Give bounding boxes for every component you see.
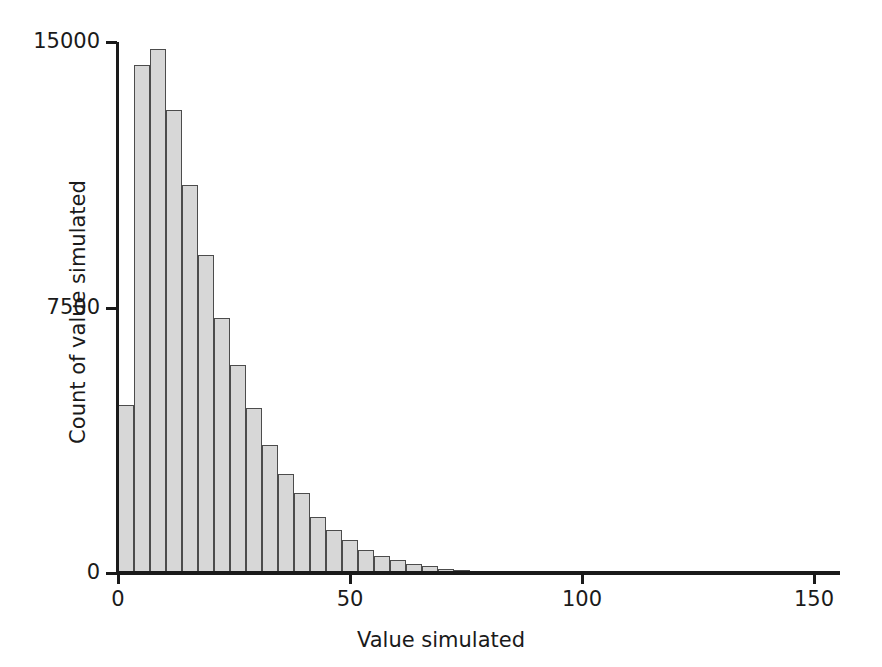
histogram-bar <box>294 493 310 573</box>
x-axis-tick <box>813 573 816 584</box>
histogram-bar <box>278 474 294 573</box>
histogram-bar <box>198 255 214 573</box>
x-axis-tick-label: 0 <box>78 589 158 610</box>
histogram-bar <box>262 445 278 573</box>
histogram-bar <box>230 365 246 573</box>
histogram-figure: 0750015000 050100150 Value simulated Cou… <box>0 0 882 667</box>
y-axis-tick <box>106 572 117 575</box>
histogram-bar <box>342 540 358 573</box>
histogram-bar <box>326 530 342 573</box>
histogram-bar <box>118 405 134 573</box>
y-axis-title: Count of value simulated <box>66 82 90 542</box>
x-axis-tick-label: 150 <box>774 589 854 610</box>
x-axis-tick <box>117 573 120 584</box>
histogram-bar <box>166 110 182 573</box>
histogram-bar <box>214 318 230 573</box>
histogram-bar <box>150 49 166 573</box>
y-axis-tick <box>106 41 117 44</box>
x-axis-tick <box>581 573 584 584</box>
y-axis-title-wrapper: Count of value simulated <box>44 20 74 580</box>
x-axis-tick <box>349 573 352 584</box>
x-axis-line <box>116 571 840 575</box>
histogram-bar <box>134 65 150 573</box>
histogram-bar <box>246 408 262 573</box>
histogram-bar <box>182 185 198 573</box>
histogram-bar <box>358 550 374 573</box>
y-axis-tick <box>106 307 117 310</box>
x-axis-title: Value simulated <box>0 628 882 652</box>
x-axis-tick-label: 50 <box>310 589 390 610</box>
plot-area <box>118 42 818 573</box>
histogram-bar <box>310 517 326 573</box>
x-axis-tick-label: 100 <box>542 589 622 610</box>
